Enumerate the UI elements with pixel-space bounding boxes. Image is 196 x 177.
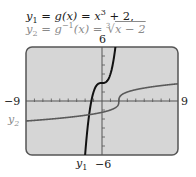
graph-window <box>0 0 196 177</box>
